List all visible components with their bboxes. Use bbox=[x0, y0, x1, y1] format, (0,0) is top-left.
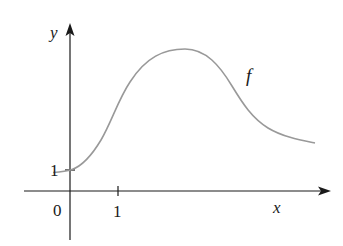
y-axis-label: y bbox=[48, 23, 58, 42]
curve-f bbox=[53, 49, 315, 173]
function-graph: y x 0 1 1 f bbox=[0, 0, 343, 246]
x-axis-label: x bbox=[272, 198, 281, 217]
y-tick-label-1: 1 bbox=[50, 161, 59, 180]
curve-label-f: f bbox=[246, 65, 254, 86]
x-tick-label-1: 1 bbox=[113, 202, 122, 221]
origin-label: 0 bbox=[53, 201, 62, 220]
